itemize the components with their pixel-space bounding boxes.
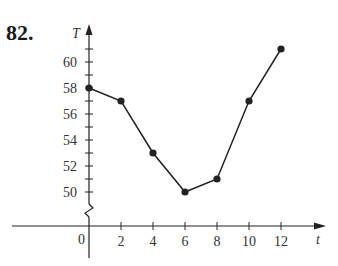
series-line xyxy=(85,45,284,195)
x-tick-label: 8 xyxy=(214,234,221,249)
data-point xyxy=(117,97,124,104)
y-tick-label: 58 xyxy=(63,81,77,96)
y-axis-arrow-icon xyxy=(86,24,93,35)
y-tick-label: 56 xyxy=(63,107,77,122)
line-chart: T505254565860t024681012 xyxy=(0,0,338,266)
x-tick-label: 12 xyxy=(274,234,288,249)
axis-break-icon xyxy=(85,204,93,217)
origin-label: 0 xyxy=(78,232,85,247)
y-axis-label: T xyxy=(72,26,81,41)
data-point xyxy=(277,45,284,52)
y-tick-label: 50 xyxy=(63,185,77,200)
x-tick-label: 10 xyxy=(242,234,256,249)
data-point xyxy=(149,149,156,156)
data-point xyxy=(181,188,188,195)
axes: T505254565860t024681012 xyxy=(12,24,326,258)
data-point xyxy=(85,84,92,91)
x-tick-label: 6 xyxy=(182,234,189,249)
data-point xyxy=(245,97,252,104)
data-line xyxy=(89,49,281,192)
x-axis-label: t xyxy=(316,232,321,247)
x-axis-arrow-icon xyxy=(314,223,326,230)
x-tick-label: 2 xyxy=(118,234,125,249)
data-point xyxy=(213,175,220,182)
y-tick-label: 52 xyxy=(63,159,77,174)
y-tick-label: 60 xyxy=(63,55,77,70)
x-tick-label: 4 xyxy=(150,234,157,249)
y-tick-label: 54 xyxy=(63,133,77,148)
